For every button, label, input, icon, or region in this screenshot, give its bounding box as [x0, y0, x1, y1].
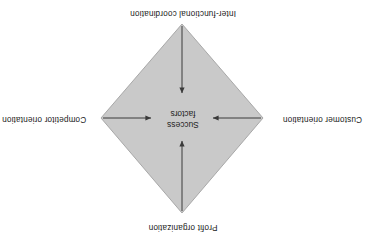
- node-label-customer-orientation: Customer orientation: [266, 114, 362, 124]
- center-label-line-1: Success: [133, 120, 233, 131]
- node-label-inter-functional-coordination: Inter-functional coordination: [0, 8, 366, 18]
- center-label-success-factors: Success factors: [133, 109, 233, 130]
- node-label-competitor-orientation: Competitor orientation: [2, 114, 98, 124]
- node-label-profit-organization: Profit organization: [0, 222, 366, 232]
- diagram-canvas: Profit organization Customer orientation…: [0, 0, 366, 240]
- center-label-line-2: factors: [133, 109, 233, 120]
